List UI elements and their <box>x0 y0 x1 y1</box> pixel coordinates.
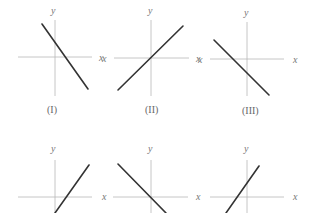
x-axis-label-left: x <box>197 54 203 65</box>
y-axis-label: y <box>50 5 56 16</box>
graphs-figure: y x (I) y x x (II) y x x (III) y x y x <box>0 0 315 213</box>
y-axis-label: y <box>147 143 153 154</box>
y-axis-label: y <box>50 143 56 154</box>
x-axis-label: x <box>292 191 298 202</box>
y-axis-label: y <box>243 143 249 154</box>
graph-ii: y x x (II) <box>101 5 201 116</box>
x-axis-label: x <box>101 191 107 202</box>
graph-caption: (I) <box>47 104 57 116</box>
x-axis-label-left: x <box>101 53 107 64</box>
y-axis-label: y <box>243 7 249 18</box>
x-axis-label: x <box>292 54 298 65</box>
graph-line <box>214 40 269 95</box>
graph-line <box>118 164 166 213</box>
graph-line <box>226 166 259 213</box>
graph-line <box>42 24 88 89</box>
y-axis-label: y <box>147 5 153 16</box>
graph-v: y x <box>113 143 201 213</box>
x-axis-label: x <box>195 191 201 202</box>
graph-caption: (III) <box>242 105 259 117</box>
graph-caption: (II) <box>145 104 158 116</box>
graph-iv: y x <box>18 143 107 213</box>
graph-i: y x (I) <box>18 5 104 116</box>
graph-vi: y x <box>210 143 298 213</box>
graph-line <box>55 165 89 213</box>
graph-iii: y x x (III) <box>197 7 298 117</box>
